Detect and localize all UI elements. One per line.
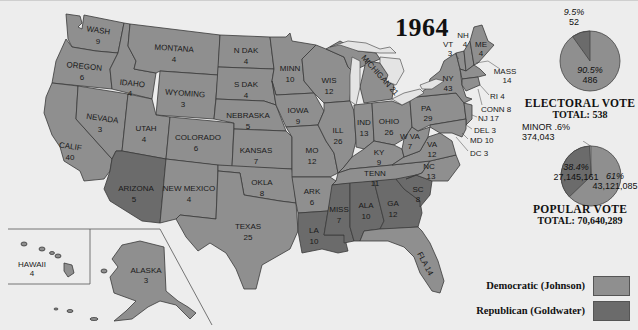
svg-text:UTAH: UTAH bbox=[135, 124, 156, 133]
svg-text:KY: KY bbox=[374, 148, 385, 157]
svg-text:DEL 3: DEL 3 bbox=[474, 126, 496, 135]
svg-text:13: 13 bbox=[360, 129, 369, 138]
svg-text:NH: NH bbox=[457, 31, 469, 40]
lake-michigan bbox=[350, 57, 360, 105]
aleutian-island bbox=[67, 310, 73, 313]
svg-text:NY: NY bbox=[442, 74, 454, 83]
svg-text:5: 5 bbox=[132, 195, 137, 204]
svg-text:10: 10 bbox=[362, 212, 371, 221]
popular-dem-label: 61%43,121,085 bbox=[592, 171, 638, 191]
svg-text:9: 9 bbox=[296, 117, 301, 126]
svg-text:IOWA: IOWA bbox=[287, 106, 309, 115]
popular-minor-label: MINOR .6%374,043 bbox=[522, 122, 578, 142]
svg-text:OKLA: OKLA bbox=[251, 178, 273, 187]
svg-text:N DAK: N DAK bbox=[234, 46, 259, 55]
svg-text:9: 9 bbox=[96, 37, 101, 46]
svg-text:COLORADO: COLORADO bbox=[175, 133, 221, 142]
legend-swatch-democratic bbox=[593, 276, 630, 296]
svg-text:MASS: MASS bbox=[494, 67, 517, 76]
svg-text:3: 3 bbox=[448, 49, 453, 58]
svg-text:TENN: TENN bbox=[364, 169, 386, 178]
svg-text:ARIZONA: ARIZONA bbox=[118, 184, 154, 193]
electoral-rep-label: 9.5%52 bbox=[556, 7, 592, 27]
svg-text:MINN: MINN bbox=[280, 64, 301, 73]
alaska-island bbox=[101, 269, 107, 273]
svg-text:PA: PA bbox=[421, 104, 432, 113]
legend-label-republican: Republican (Goldwater) bbox=[476, 305, 585, 316]
svg-text:DC 3: DC 3 bbox=[470, 149, 489, 158]
svg-text:GA: GA bbox=[387, 199, 399, 208]
svg-text:12: 12 bbox=[308, 157, 317, 166]
svg-text:4: 4 bbox=[30, 269, 35, 278]
svg-text:5: 5 bbox=[246, 122, 251, 131]
svg-text:ALASKA: ALASKA bbox=[130, 266, 162, 275]
svg-text:ALA: ALA bbox=[358, 201, 374, 210]
svg-text:4: 4 bbox=[463, 40, 468, 49]
svg-text:3: 3 bbox=[144, 276, 149, 285]
svg-text:IND: IND bbox=[357, 118, 371, 127]
svg-text:40: 40 bbox=[66, 153, 75, 162]
state-alaska[interactable] bbox=[110, 241, 196, 321]
svg-text:12: 12 bbox=[389, 210, 398, 219]
svg-text:ARK: ARK bbox=[304, 187, 321, 196]
svg-text:4: 4 bbox=[128, 89, 133, 98]
svg-text:43: 43 bbox=[444, 84, 453, 93]
svg-text:RI 4: RI 4 bbox=[490, 92, 505, 101]
svg-text:10: 10 bbox=[286, 75, 295, 84]
svg-text:NEW MEXICO: NEW MEXICO bbox=[163, 184, 215, 193]
svg-text:7: 7 bbox=[337, 216, 342, 225]
legend-item-republican: Republican (Goldwater) bbox=[470, 298, 630, 323]
legend-item-democratic: Democratic (Johnson) bbox=[470, 273, 630, 298]
legend-swatch-republican bbox=[593, 301, 630, 321]
svg-text:9: 9 bbox=[377, 158, 382, 167]
svg-text:VA: VA bbox=[427, 140, 438, 149]
svg-text:6: 6 bbox=[80, 73, 85, 82]
svg-text:14: 14 bbox=[503, 76, 512, 85]
svg-text:8: 8 bbox=[260, 189, 265, 198]
legend-label-democratic: Democratic (Johnson) bbox=[486, 280, 585, 291]
svg-text:12: 12 bbox=[325, 87, 334, 96]
electoral-caption: ELECTORAL VOTE TOTAL: 538 bbox=[515, 97, 638, 120]
svg-text:3: 3 bbox=[98, 125, 103, 134]
svg-text:4: 4 bbox=[244, 91, 249, 100]
svg-text:4: 4 bbox=[187, 195, 192, 204]
svg-text:NEBRASKA: NEBRASKA bbox=[226, 111, 270, 120]
legend: Democratic (Johnson) Republican (Goldwat… bbox=[470, 273, 630, 323]
svg-text:MD 10: MD 10 bbox=[470, 136, 494, 145]
svg-text:8: 8 bbox=[416, 195, 421, 204]
svg-text:4: 4 bbox=[244, 57, 249, 66]
svg-text:25: 25 bbox=[244, 233, 253, 242]
svg-text:OHIO: OHIO bbox=[379, 117, 399, 126]
svg-text:4: 4 bbox=[479, 49, 484, 58]
svg-text:11: 11 bbox=[371, 179, 380, 188]
svg-text:TEXAS: TEXAS bbox=[235, 222, 261, 231]
svg-text:3: 3 bbox=[181, 100, 186, 109]
svg-text:MO: MO bbox=[306, 146, 319, 155]
aleutian-island bbox=[54, 308, 58, 310]
svg-text:CONN 8: CONN 8 bbox=[481, 105, 512, 114]
svg-text:6: 6 bbox=[194, 144, 199, 153]
svg-text:S DAK: S DAK bbox=[234, 80, 259, 89]
svg-text:10: 10 bbox=[310, 237, 319, 246]
popular-caption: POPULAR VOTE TOTAL: 70,640,289 bbox=[515, 203, 638, 226]
svg-text:NC: NC bbox=[423, 162, 435, 171]
aleutian-island bbox=[90, 318, 98, 321]
svg-text:ILL: ILL bbox=[332, 126, 344, 135]
svg-text:MISS: MISS bbox=[329, 205, 349, 214]
svg-text:13: 13 bbox=[427, 172, 436, 181]
svg-text:12: 12 bbox=[428, 150, 437, 159]
svg-text:WIS: WIS bbox=[321, 76, 336, 85]
svg-text:W VA: W VA bbox=[400, 132, 421, 141]
svg-text:6: 6 bbox=[310, 198, 315, 207]
svg-text:4: 4 bbox=[142, 135, 147, 144]
state-colorado[interactable] bbox=[166, 117, 234, 167]
svg-text:7: 7 bbox=[254, 157, 259, 166]
electoral-dem-label: 90.5%486 bbox=[570, 65, 610, 85]
svg-text:4: 4 bbox=[172, 55, 177, 64]
state-conn-ri[interactable] bbox=[462, 77, 480, 91]
svg-text:7: 7 bbox=[408, 142, 413, 151]
svg-text:26: 26 bbox=[334, 137, 343, 146]
svg-text:KANSAS: KANSAS bbox=[240, 146, 272, 155]
state-fla[interactable] bbox=[360, 227, 444, 293]
svg-text:ME: ME bbox=[475, 40, 487, 49]
